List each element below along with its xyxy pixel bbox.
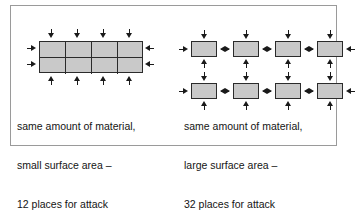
small-block: [317, 83, 343, 99]
attack-arrow-down: [285, 72, 292, 81]
arrow-head: [145, 61, 150, 67]
arrow-head: [74, 33, 80, 38]
attack-arrow-down: [243, 30, 250, 39]
attack-arrow-left: [346, 46, 355, 53]
caption-line: same amount of material,: [17, 120, 135, 133]
grid-divider-vertical: [65, 42, 66, 74]
arrow-head: [267, 46, 272, 52]
caption-large-surface-area: same amount of material, large surface a…: [184, 94, 302, 160]
caption-line: small surface area –: [17, 159, 135, 160]
attack-arrow-top: [126, 29, 133, 38]
arrow-head: [346, 88, 351, 94]
arrow-head: [201, 76, 207, 81]
arrow-head: [267, 88, 272, 94]
small-block: [191, 41, 217, 57]
attack-arrow-down: [201, 30, 208, 39]
panel-eight-separate-blocks: same amount of material, large surface a…: [171, 6, 338, 145]
attack-arrow-bottom: [100, 76, 107, 85]
arrow-head: [309, 46, 314, 52]
arrow-head: [183, 46, 188, 52]
attack-arrow-down: [243, 72, 250, 81]
arrow-head: [48, 76, 54, 81]
attack-arrow-up: [285, 59, 292, 68]
attack-arrow-bottom: [126, 76, 133, 85]
attack-arrow-right: [221, 46, 230, 53]
arrow-head: [285, 59, 291, 64]
arrow-head: [285, 34, 291, 39]
grid-divider-vertical: [117, 42, 118, 74]
arrow-head: [285, 76, 291, 81]
arrow-head: [243, 76, 249, 81]
arrow-head: [327, 34, 333, 39]
attack-arrow-right: [145, 61, 154, 68]
arrow-head: [346, 46, 351, 52]
small-block: [317, 41, 343, 57]
arrow-head: [309, 88, 314, 94]
attack-arrow-left: [346, 88, 355, 95]
attack-arrow-right: [305, 46, 314, 53]
arrow-head: [145, 45, 150, 51]
arrow-head: [201, 59, 207, 64]
arrow-head: [327, 59, 333, 64]
attack-arrow-bottom: [48, 76, 55, 85]
arrow-head: [225, 88, 230, 94]
arrow-head: [74, 76, 80, 81]
attack-arrow-up: [327, 59, 334, 68]
panel-single-large-block: same amount of material, small surface a…: [11, 6, 179, 145]
attack-arrow-down: [327, 72, 334, 81]
arrow-head: [243, 59, 249, 64]
caption-small-surface-area: same amount of material, small surface a…: [17, 94, 135, 160]
attack-arrow-down: [201, 72, 208, 81]
figure-frame: same amount of material, small surface a…: [10, 5, 337, 146]
attack-arrow-up: [243, 59, 250, 68]
attack-arrow-bottom: [74, 76, 81, 85]
arrow-head: [225, 46, 230, 52]
attack-arrow-right: [263, 46, 272, 53]
attack-arrow-right: [145, 45, 154, 52]
attack-arrow-left: [27, 61, 36, 68]
attack-arrow-up: [327, 101, 334, 110]
attack-arrow-top: [74, 29, 81, 38]
caption-line: large surface area –: [184, 159, 302, 160]
arrow-head: [48, 33, 54, 38]
grid-divider-horizontal: [40, 57, 142, 58]
attack-arrow-right: [305, 88, 314, 95]
arrow-head: [327, 76, 333, 81]
arrow-head: [183, 88, 188, 94]
arrow-head: [126, 33, 132, 38]
attack-arrow-up: [201, 59, 208, 68]
attack-arrow-down: [285, 30, 292, 39]
arrow-head: [126, 76, 132, 81]
attack-arrow-left: [27, 45, 36, 52]
arrow-head: [201, 34, 207, 39]
attack-arrow-right: [179, 46, 188, 53]
arrow-head: [327, 101, 333, 106]
arrow-head: [100, 33, 106, 38]
arrow-head: [31, 61, 36, 67]
arrow-head: [100, 76, 106, 81]
attack-arrow-top: [48, 29, 55, 38]
grid-divider-vertical: [91, 42, 92, 74]
attack-arrow-down: [327, 30, 334, 39]
attack-arrow-top: [100, 29, 107, 38]
small-block: [233, 41, 259, 57]
caption-line: same amount of material,: [184, 120, 302, 133]
arrow-head: [243, 34, 249, 39]
large-block: [39, 41, 143, 73]
small-block: [275, 41, 301, 57]
arrow-head: [31, 45, 36, 51]
